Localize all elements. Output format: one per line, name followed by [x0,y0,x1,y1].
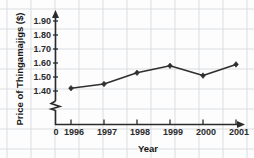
y-tick-label-1-80: 1.80 [33,30,51,40]
x-tick-label-1998: 1998 [130,127,150,137]
x-tick-label-1999: 1999 [163,127,183,137]
x-tick-label-1996: 1996 [64,127,84,137]
x-axis-title: Year [138,143,158,154]
y-tick-label-1-40: 1.40 [33,86,51,96]
x-tick-label-origin: 0 [53,127,58,137]
x-tick-label-2000: 2000 [196,127,216,137]
y-tick-label-1-50: 1.50 [33,72,51,82]
y-axis-title: Price of Thingamajigs ($) [14,13,25,126]
y-tick-label-1-60: 1.60 [33,58,51,68]
y-tick-label-1-70: 1.70 [33,44,51,54]
x-tick-label-2001: 2001 [229,127,249,137]
chart-canvas: Price of Thingamajigs ($) 1.90 1.80 1.70… [0,0,254,158]
x-tick-label-1997: 1997 [97,127,117,137]
price-of-thingamajigs-line-chart: Price of Thingamajigs ($) 1.90 1.80 1.70… [0,0,254,158]
y-tick-label-1-90: 1.90 [33,16,51,26]
